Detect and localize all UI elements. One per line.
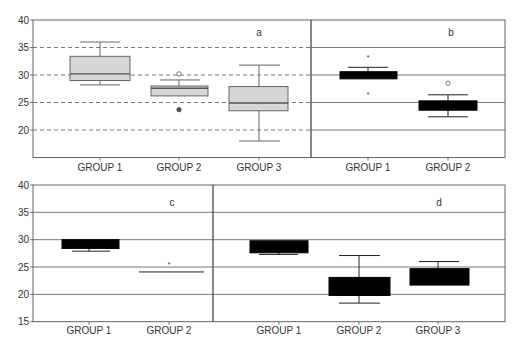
box-iqr bbox=[410, 269, 469, 285]
x-category-label: GROUP 3 bbox=[237, 162, 282, 173]
x-category-label: GROUP 1 bbox=[346, 162, 391, 173]
outlier-filled bbox=[177, 107, 181, 111]
y-tick-label: 20 bbox=[18, 289, 30, 300]
y-tick-label: 15 bbox=[18, 316, 30, 327]
panel-frame-b bbox=[311, 20, 505, 158]
panel-letter-d: d bbox=[436, 197, 442, 208]
x-category-label: GROUP 1 bbox=[78, 162, 123, 173]
x-category-label: GROUP 2 bbox=[426, 162, 471, 173]
panel-letter-b: b bbox=[448, 27, 454, 38]
y-tick-label: 35 bbox=[18, 207, 30, 218]
box-iqr bbox=[250, 241, 308, 253]
outlier-star: * bbox=[366, 90, 369, 99]
x-category-label: GROUP 2 bbox=[147, 325, 192, 336]
x-category-label: GROUP 1 bbox=[67, 325, 112, 336]
y-tick-label: 40 bbox=[18, 15, 30, 26]
y-tick-label: 30 bbox=[18, 234, 30, 245]
x-category-label: GROUP 2 bbox=[337, 325, 382, 336]
box-iqr bbox=[70, 56, 130, 80]
panel-letter-a: a bbox=[256, 27, 262, 38]
outlier-circle bbox=[177, 72, 181, 76]
panel-letter-c: c bbox=[170, 197, 175, 208]
box-iqr bbox=[340, 72, 397, 79]
outlier-circle bbox=[446, 81, 450, 85]
y-tick-label: 30 bbox=[18, 70, 30, 81]
box-iqr bbox=[419, 101, 477, 110]
outlier-star: * bbox=[167, 260, 170, 269]
x-category-label: GROUP 1 bbox=[257, 325, 302, 336]
y-tick-label: 25 bbox=[18, 262, 30, 273]
y-tick-label: 20 bbox=[18, 125, 30, 136]
box-iqr bbox=[151, 86, 208, 96]
panel-frame-c bbox=[33, 185, 213, 322]
box-iqr bbox=[229, 87, 288, 111]
y-tick-label: 35 bbox=[18, 42, 30, 53]
x-category-label: GROUP 2 bbox=[157, 162, 202, 173]
y-tick-label: 25 bbox=[18, 97, 30, 108]
outlier-star: * bbox=[366, 53, 369, 62]
box-iqr bbox=[62, 240, 119, 249]
x-category-label: GROUP 3 bbox=[416, 325, 461, 336]
box-iqr bbox=[329, 277, 390, 295]
boxplot-figure: 2025303540aGROUP 1GROUP 2GROUP 3bGROUP 1… bbox=[0, 0, 517, 352]
y-tick-label: 40 bbox=[18, 180, 30, 191]
